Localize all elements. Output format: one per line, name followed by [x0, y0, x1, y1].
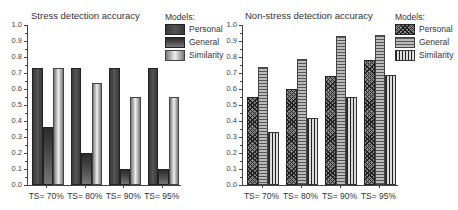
y-tick [239, 137, 243, 138]
y-minor-tick [240, 129, 242, 130]
x-tick-label: TS= 80% [281, 191, 321, 201]
x-axis [242, 185, 398, 186]
y-minor-tick [240, 49, 242, 50]
legend-label-personal: Personal [419, 24, 453, 34]
x-tick [262, 185, 263, 188]
y-tick [239, 89, 243, 90]
y-minor-tick [240, 145, 242, 146]
y-tick [239, 169, 243, 170]
bar-similarity [346, 97, 357, 185]
y-tick-label: 0.6 [217, 84, 237, 93]
x-tick [379, 185, 380, 188]
y-tick [239, 41, 243, 42]
bar-personal [247, 97, 258, 185]
non-stress-chart: Non-stress detection accuracy0.00.10.20.… [0, 0, 458, 210]
y-minor-tick [240, 97, 242, 98]
legend-label-general: General [419, 37, 449, 47]
bar-personal [286, 89, 297, 185]
y-tick-label: 0.4 [217, 116, 237, 125]
bar-general [336, 36, 347, 185]
y-tick [239, 153, 243, 154]
x-tick-label: TS= 70% [242, 191, 282, 201]
y-minor-tick [240, 65, 242, 66]
legend-swatch-general [395, 37, 415, 48]
bar-personal [364, 60, 375, 185]
legend-title: Models: [395, 12, 425, 22]
x-tick-label: TS= 95% [359, 191, 399, 201]
y-tick [239, 57, 243, 58]
y-tick-label: 0.8 [217, 52, 237, 61]
y-tick [239, 105, 243, 106]
y-minor-tick [240, 161, 242, 162]
y-minor-tick [240, 177, 242, 178]
y-tick [239, 185, 243, 186]
bar-similarity [268, 132, 279, 185]
y-tick-label: 0.5 [217, 100, 237, 109]
y-minor-tick [240, 113, 242, 114]
legend-label-similarity: Similarity [419, 50, 453, 60]
x-tick [340, 185, 341, 188]
y-tick-label: 0.2 [217, 148, 237, 157]
y-minor-tick [240, 81, 242, 82]
y-tick-label: 0.0 [217, 180, 237, 189]
y-tick [239, 121, 243, 122]
y-tick [239, 25, 243, 26]
y-tick-label: 0.9 [217, 36, 237, 45]
y-tick-label: 0.1 [217, 164, 237, 173]
chart-title: Non-stress detection accuracy [245, 10, 373, 21]
y-minor-tick [240, 33, 242, 34]
bar-similarity [385, 75, 396, 185]
y-tick-label: 1.0 [217, 20, 237, 29]
y-tick-label: 0.3 [217, 132, 237, 141]
y-tick-label: 0.7 [217, 68, 237, 77]
x-tick [301, 185, 302, 188]
bar-personal [325, 76, 336, 185]
legend-swatch-similarity [395, 50, 415, 61]
bar-general [375, 35, 386, 185]
bar-general [258, 67, 269, 185]
bar-general [297, 59, 308, 185]
bar-similarity [307, 118, 318, 185]
x-tick-label: TS= 90% [320, 191, 360, 201]
legend-swatch-personal [395, 24, 415, 35]
y-tick [239, 73, 243, 74]
